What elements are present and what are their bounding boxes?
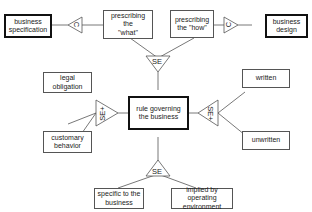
customary-behavior-node: customary behavior (43, 131, 92, 153)
c-label-right: C (224, 22, 233, 27)
written-node: written (242, 69, 290, 88)
business-design-node: business design (265, 14, 308, 38)
specific-to-business-node: specific to the business (94, 188, 144, 209)
business-design-label: business design (273, 18, 301, 35)
prescribing-what-node: prescribing the "what" (103, 10, 153, 39)
prescribing-how-node: prescribing the "how" (170, 10, 214, 38)
rule-governing-label: rule governing the business (136, 105, 180, 122)
se-plus-label-right: SE+ (206, 106, 215, 120)
rule-governing-node: rule governing the business (128, 96, 189, 130)
se-label-top: SE (152, 57, 162, 66)
unwritten-label: unwritten (252, 136, 280, 145)
specific-to-business-label: specific to the business (98, 190, 141, 207)
written-label: written (256, 74, 277, 83)
business-specification-node: business specification (4, 14, 52, 38)
legal-obligation-label: legal obligation (53, 74, 83, 91)
c-label-left: C (72, 22, 81, 27)
implied-by-environment-label: implied by operating environment (174, 186, 230, 212)
customary-behavior-label: customary behavior (51, 134, 83, 151)
se-label-bottom: SE (152, 167, 162, 176)
prescribing-what-label: prescribing the "what" (106, 12, 150, 38)
unwritten-node: unwritten (242, 131, 290, 150)
legal-obligation-node: legal obligation (43, 72, 92, 93)
se-plus-label-left: SE+ (98, 106, 107, 120)
prescribing-how-label: prescribing the "how" (175, 16, 209, 33)
business-specification-label: business specification (9, 18, 48, 35)
implied-by-environment-node: implied by operating environment (171, 188, 233, 209)
